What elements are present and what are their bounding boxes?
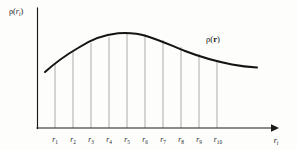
tick-label-r2: r2 xyxy=(70,135,76,145)
tick-label-r9: r9 xyxy=(196,135,202,145)
tick-label-r6: r6 xyxy=(142,135,148,145)
tick-label-r5: r5 xyxy=(124,135,130,145)
tick-label-r10: r10 xyxy=(214,135,223,145)
figure-container: ρ(ri) ρ(r) r1 r2 r3 r4 r5 r6 r7 r8 r9 r1… xyxy=(0,0,297,150)
tick-label-r1: r1 xyxy=(52,135,58,145)
tick-label-r4: r4 xyxy=(106,135,112,145)
x-axis-label: ri xyxy=(274,136,279,146)
tick-label-r8: r8 xyxy=(178,135,184,145)
tick-label-r7: r7 xyxy=(160,135,166,145)
tick-label-group: r1 r2 r3 r4 r5 r6 r7 r8 r9 r10 xyxy=(52,135,222,145)
x-axis-subscript: i xyxy=(277,140,279,146)
tick-labels-layer: r1 r2 r3 r4 r5 r6 r7 r8 r9 r10 ri xyxy=(0,0,297,150)
tick-label-r3: r3 xyxy=(88,135,94,145)
